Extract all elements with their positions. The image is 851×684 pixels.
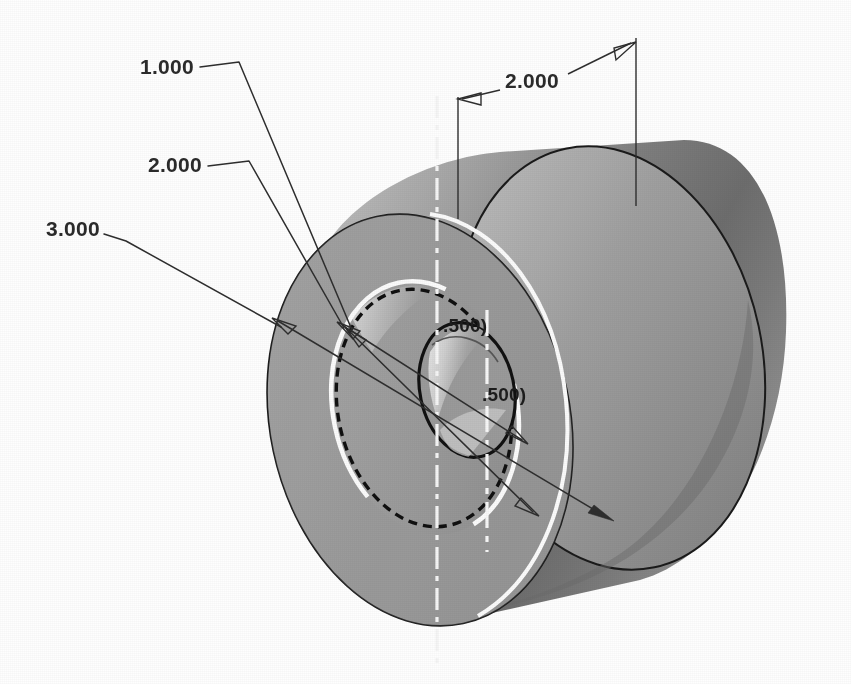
dimension-label-3-000: 3.000 (46, 217, 100, 240)
reference-label-500-lower: .500) (482, 384, 526, 405)
dimension-label-2-000-top: 2.000 (505, 69, 559, 92)
technical-drawing-svg: 1.000 2.000 3.000 2.000 .500) .500) (0, 0, 851, 684)
dimension-line-right-segment (568, 43, 631, 74)
drawing-canvas: 1.000 2.000 3.000 2.000 .500) .500) (0, 0, 851, 684)
arrowhead-dim-right (614, 42, 636, 60)
dimension-label-2-000-left: 2.000 (148, 153, 202, 176)
dimension-label-1-000: 1.000 (140, 55, 194, 78)
reference-label-500-upper: .500) (443, 315, 487, 336)
leader-line-3-000 (104, 234, 281, 327)
